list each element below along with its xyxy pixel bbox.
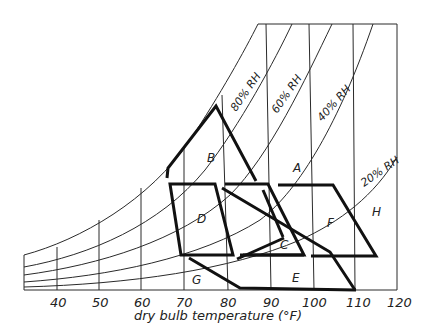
x-tick-110: 110 (346, 295, 371, 310)
zone-label-h: H (372, 205, 381, 219)
dry-bulb-gridlines (57, 24, 355, 290)
zone-label-d: D (197, 212, 206, 226)
rh-80-curve (24, 24, 292, 267)
rh-40-curve (24, 24, 373, 282)
x-tick-100: 100 (302, 295, 327, 310)
x-tick-120: 120 (387, 295, 412, 310)
zone-outlines (167, 106, 376, 290)
zone-label-g: G (192, 273, 201, 287)
zone-label-a: A (292, 161, 301, 175)
zone-label-f: F (327, 216, 335, 230)
x-tick-40: 40 (50, 295, 67, 310)
zone-label-e: E (292, 271, 300, 285)
rh-label-20: 20% RH (358, 154, 401, 190)
rh-label-80: 80% RH (228, 70, 264, 113)
zone-label-b: B (207, 151, 215, 165)
psychrometric-chart: 80% RH 60% RH 40% RH 20% RH A B C D E F … (0, 0, 427, 333)
zone-label-c: C (280, 238, 289, 252)
rh-label-60: 60% RH (269, 72, 305, 115)
x-tick-50: 50 (92, 295, 109, 310)
x-axis-label: dry bulb temperature (°F) (134, 308, 302, 323)
